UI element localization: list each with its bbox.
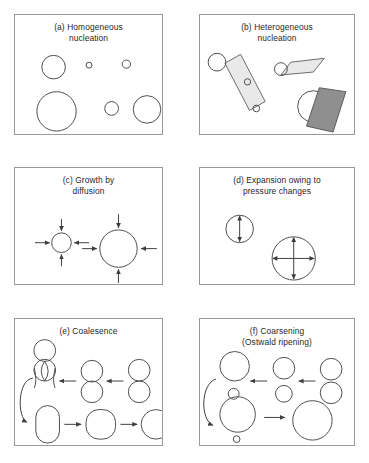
panel-c-growth-by-diffusion: (c) Growth bydiffusion (14, 167, 163, 285)
bubble-stage1-upper (128, 359, 150, 381)
coarsening-wrap-arrow (204, 379, 216, 425)
panel-f-artwork (200, 319, 354, 445)
bubble (42, 55, 66, 79)
panel-c-artwork (15, 168, 162, 284)
bubble-on-substrate (208, 53, 226, 71)
panel-b-heterogeneous-nucleation: (b) Heterogeneousnucleation (199, 14, 355, 135)
bubble-stage5-rounded (86, 410, 116, 440)
bubble (122, 60, 130, 68)
bubble (133, 96, 161, 124)
bubble (37, 92, 76, 131)
bubble (86, 62, 92, 68)
bubble-stage5-final (293, 401, 332, 440)
substrate-dark-parallelogram (307, 88, 346, 132)
bubble-stage2-upper (81, 360, 103, 382)
panel-e-artwork (15, 319, 162, 445)
bubble-stage6-circle (141, 410, 162, 440)
bubble-large (100, 230, 137, 267)
bubble-stage2-upper (273, 357, 295, 379)
panel-b-artwork (200, 15, 354, 134)
panel-e-coalescence: (e) Coalesence (14, 318, 163, 446)
coalescence-wrap-arrow (20, 378, 33, 422)
panel-a-artwork (15, 15, 162, 134)
bubble-stage4-capsule (36, 406, 60, 443)
panel-d-expansion-pressure: (d) Expansion owing topressure changes (199, 167, 355, 285)
panel-d-artwork (200, 168, 354, 284)
bubble-stage2-lower (276, 385, 293, 402)
bubble-stage3-large (220, 351, 250, 381)
bubble-small (52, 233, 72, 253)
bubble-stage4-tiny (233, 436, 240, 443)
panel-a-homogeneous-nucleation: (a) Homogeneousnucleation (14, 14, 163, 135)
bubble-stage2-lower (81, 381, 103, 403)
substrate-light-rectangle (225, 54, 265, 110)
bubble-stage1-upper (320, 358, 342, 380)
bubble (105, 102, 119, 116)
bubble-stage1-lower (320, 382, 342, 404)
substrate-thin-parallelogram (281, 58, 324, 75)
bubble-stage1-lower (128, 381, 150, 403)
figure-container: (a) Homogeneousnucleation (b) Heterogene… (0, 0, 369, 463)
bubble-stage3-peanut (34, 340, 56, 381)
panel-f-coarsening-ostwald: (f) Coarsening(Ostwald ripening) (199, 318, 355, 446)
bubble-stage4-large (220, 397, 255, 432)
